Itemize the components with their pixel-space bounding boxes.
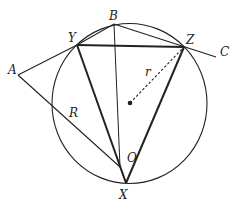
segment-YZ	[77, 45, 184, 47]
label-C: C	[220, 45, 229, 59]
label-Z: Z	[185, 33, 195, 47]
segment-BC	[114, 24, 216, 57]
label-O: O	[127, 151, 137, 165]
radius-r	[130, 47, 184, 103]
label-r: r	[145, 65, 152, 79]
segment-AY	[18, 45, 77, 75]
segment-YX	[77, 45, 126, 183]
label-Y: Y	[68, 31, 77, 45]
label-A: A	[7, 63, 17, 77]
label-X: X	[118, 188, 128, 202]
geometry-diagram: A B C O X Y Z r R	[0, 0, 240, 214]
label-B: B	[108, 9, 118, 23]
label-R: R	[68, 106, 78, 120]
segment-YB	[77, 24, 114, 45]
center-dot	[128, 101, 133, 106]
